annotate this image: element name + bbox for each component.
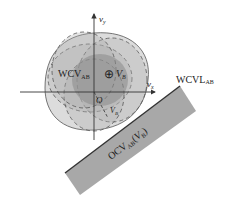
y-axis-label: vy <box>99 14 106 25</box>
origin-label: O <box>96 95 103 105</box>
vb-symbol: ⊕ <box>104 67 114 81</box>
velocity-obstacle-diagram: vy vx O WCVAB ⊕ VB VB WCVLAB OCVAB(VB) <box>0 0 236 209</box>
x-axis-label: vx <box>147 79 154 90</box>
wcvl-label: WCVLAB <box>176 74 214 85</box>
